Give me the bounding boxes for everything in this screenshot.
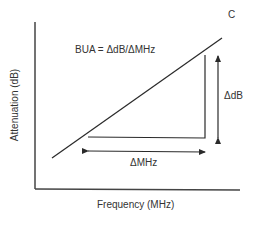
y-axis-label: Attenuation (dB) [9,69,20,141]
curve-label: C [228,9,235,20]
slope-triangle [88,55,205,138]
formula-label: BUA = ΔdB/ΔMHz [75,44,155,55]
bua-diagram [0,0,256,225]
x-axis-label: Frequency (MHz) [97,199,174,210]
x-axis [35,189,240,190]
attenuation-line [52,38,222,158]
delta-mhz-label: ΔMHz [130,157,157,168]
delta-mhz-arrow [88,151,205,152]
delta-db-label: ΔdB [224,90,243,101]
